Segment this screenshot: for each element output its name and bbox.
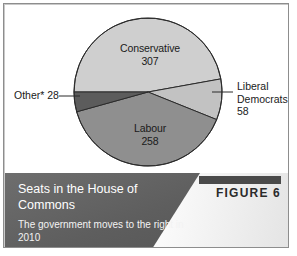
figure-tag-label: FIGURE 6	[199, 186, 281, 200]
pie-label-conservative: Conservative 307	[82, 42, 218, 67]
figure-tag-rule	[199, 176, 281, 184]
pie-label-conservative-value: 307	[82, 55, 218, 68]
figure-caption-subtitle: The government moves to the right in 201…	[18, 218, 188, 244]
pie-label-conservative-name: Conservative	[82, 42, 218, 55]
pie-callout-liberal-democrats: Liberal Democrats 58	[237, 80, 289, 118]
pie-label-labour-value: 258	[100, 135, 200, 148]
caption-band: Seats in the House of Commons The govern…	[4, 173, 289, 248]
figure-root: Conservative 307 Labour 258 Other* 28 Li…	[0, 0, 297, 256]
figure-tag-block: FIGURE 6	[199, 176, 281, 200]
pie-label-labour-name: Labour	[100, 122, 200, 135]
figure-frame: Conservative 307 Labour 258 Other* 28 Li…	[3, 3, 289, 248]
pie-callout-other: Other* 28	[14, 89, 59, 102]
pie-callout-libdem-line2: Democrats	[237, 93, 289, 106]
figure-caption-title: Seats in the House of Commons	[18, 181, 183, 213]
pie-label-labour: Labour 258	[100, 122, 200, 147]
pie-callout-libdem-line1: Liberal	[237, 80, 289, 93]
pie-chart: Conservative 307 Labour 258 Other* 28 Li…	[4, 4, 289, 172]
pie-callout-libdem-value: 58	[237, 105, 289, 118]
